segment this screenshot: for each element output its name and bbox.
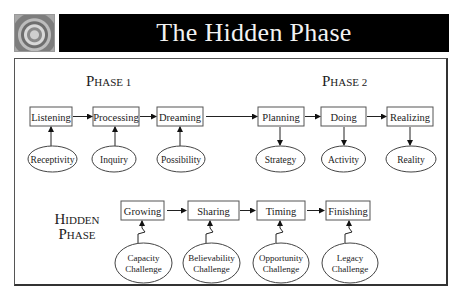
step-finishing: Finishing [326,201,370,220]
step-doing: Doing [321,107,366,126]
step-growing: Growing [121,201,164,220]
input-inquiry: Inquiry [92,127,136,172]
svg-text:Challenge: Challenge [125,264,162,274]
svg-text:Growing: Growing [124,206,162,217]
step-realizing: Realizing [387,107,433,126]
step-timing: Timing [257,201,305,220]
output-reality: Reality [386,127,436,172]
output-activity: Activity [322,127,366,172]
output-strategy: Strategy [256,127,305,172]
svg-text:Possibility: Possibility [161,155,201,165]
svg-text:Believability: Believability [188,253,235,263]
svg-text:Sharing: Sharing [197,206,230,217]
diagram: PHASE 1 PHASE 2 Listening Processing Dre… [0,0,463,300]
challenge-believability: Believability Challenge [183,221,240,283]
hidden-phase-label: HIDDEN PHASE [54,211,99,242]
step-listening: Listening [30,107,72,126]
input-receptivity: Receptivity [28,127,77,172]
svg-text:Receptivity: Receptivity [31,155,75,165]
step-sharing: Sharing [188,201,239,220]
phase-1-label: PHASE 1 [86,73,131,89]
svg-text:Challenge: Challenge [193,264,230,274]
svg-text:HIDDEN: HIDDEN [54,211,99,227]
step-dreaming: Dreaming [157,107,203,126]
svg-text:Legacy: Legacy [337,253,364,263]
svg-text:Doing: Doing [330,112,357,123]
challenge-capacity: Capacity Challenge [115,221,172,283]
svg-text:Activity: Activity [328,155,359,165]
svg-text:Processing: Processing [93,112,139,123]
svg-text:Finishing: Finishing [328,206,368,217]
svg-text:Dreaming: Dreaming [159,112,202,123]
svg-text:Challenge: Challenge [332,264,369,274]
svg-text:Realizing: Realizing [390,112,431,123]
phase-2-label: PHASE 2 [322,73,367,89]
svg-text:Challenge: Challenge [263,264,300,274]
svg-text:Reality: Reality [397,155,425,165]
svg-text:Opportunity: Opportunity [259,253,303,263]
svg-text:Capacity: Capacity [128,253,160,263]
svg-text:Listening: Listening [31,112,71,123]
challenge-legacy: Legacy Challenge [322,221,378,283]
step-planning: Planning [258,107,304,126]
step-processing: Processing [93,107,139,126]
svg-text:PHASE: PHASE [58,226,95,242]
input-possibility: Possibility [157,127,205,172]
svg-text:Planning: Planning [262,112,300,123]
challenge-opportunity: Opportunity Challenge [253,221,309,283]
svg-text:Timing: Timing [266,206,297,217]
svg-text:Inquiry: Inquiry [100,155,128,165]
svg-text:Strategy: Strategy [265,155,297,165]
